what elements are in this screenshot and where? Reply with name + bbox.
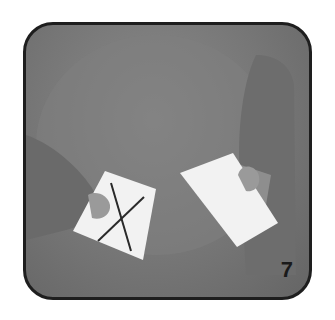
photo-illustration (26, 25, 309, 297)
step-number: 7 (281, 257, 293, 283)
photo-frame: 7 (23, 22, 312, 300)
right-arm (239, 55, 296, 275)
